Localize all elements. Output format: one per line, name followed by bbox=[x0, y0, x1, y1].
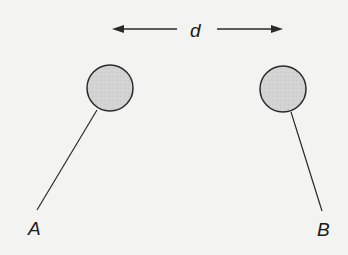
sphere-b-label: B bbox=[317, 220, 330, 239]
thread-b bbox=[291, 112, 322, 211]
diagram-svg bbox=[0, 0, 348, 255]
diagram-canvas: d A B bbox=[0, 0, 348, 255]
arrowhead-right-icon bbox=[271, 25, 283, 33]
arrowhead-left-icon bbox=[112, 25, 124, 33]
thread-a bbox=[37, 110, 97, 210]
distance-label: d bbox=[190, 21, 201, 40]
sphere-a-label: A bbox=[28, 219, 41, 238]
sphere-a bbox=[87, 65, 133, 111]
sphere-b bbox=[260, 66, 306, 112]
